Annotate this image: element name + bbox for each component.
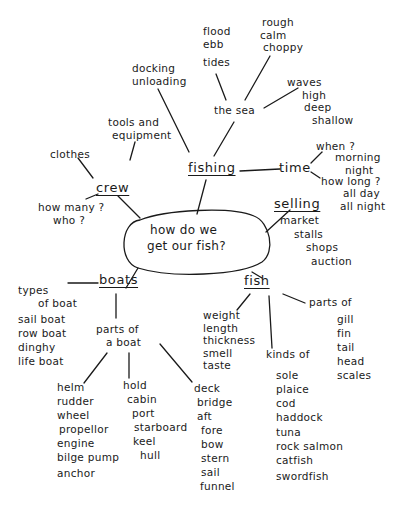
shops-text: shops bbox=[306, 241, 352, 255]
helm-text: helm bbox=[57, 380, 119, 394]
hull-text: hull bbox=[140, 448, 187, 462]
keel-text: keel bbox=[133, 434, 187, 448]
parts-of-fish-label: parts of bbox=[309, 296, 352, 309]
funnel-text: funnel bbox=[200, 479, 235, 493]
deck-text: deck bbox=[194, 381, 235, 395]
fish-parts-list: gill fin tail head scales bbox=[337, 312, 371, 382]
sea-conditions: rough calm choppy bbox=[260, 16, 303, 54]
selling-node: selling bbox=[274, 196, 320, 211]
shallow-text: shallow bbox=[312, 114, 354, 127]
gill-text: gill bbox=[337, 312, 371, 326]
mind-map: how do we get our fish? fishing docking … bbox=[0, 0, 409, 506]
calm-text: calm bbox=[260, 29, 303, 42]
fish-node: fish bbox=[244, 273, 270, 288]
rudder-text: rudder bbox=[57, 394, 119, 408]
swordfish-text: swordfish bbox=[276, 469, 343, 483]
parts-of-text: parts of bbox=[96, 323, 141, 336]
all-night-text: all night bbox=[340, 200, 385, 213]
anchor-text: anchor bbox=[57, 466, 119, 480]
engine-text: engine bbox=[57, 436, 119, 450]
wheel-text: wheel bbox=[57, 408, 119, 422]
dinghy-text: dinghy bbox=[18, 341, 66, 355]
tools-node: tools and equipment bbox=[108, 116, 172, 141]
boat-types-list: sail boat row boat dinghy life boat bbox=[18, 313, 66, 369]
length-text: length bbox=[203, 322, 255, 335]
fin-text: fin bbox=[337, 326, 371, 340]
deep-text: deep bbox=[304, 101, 354, 114]
helm-group: helm rudder wheel propellor engine bilge… bbox=[57, 380, 119, 480]
center-line-1: how do we bbox=[150, 222, 226, 238]
hold-group: hold cabin port starboard keel hull bbox=[123, 378, 187, 462]
tides-items: flood ebb bbox=[203, 25, 231, 50]
tools-text: tools and bbox=[108, 116, 172, 129]
sail-boat-text: sail boat bbox=[18, 313, 66, 327]
catfish-text: catfish bbox=[276, 453, 343, 467]
time-node: time bbox=[279, 160, 311, 175]
ebb-text: ebb bbox=[203, 38, 231, 51]
parts-of-a-boat-label: parts of a boat bbox=[96, 323, 141, 348]
sole-text: sole bbox=[276, 368, 343, 382]
starboard-text: starboard bbox=[134, 420, 187, 434]
stalls-text: stalls bbox=[294, 228, 352, 242]
tail-text: tail bbox=[337, 340, 371, 354]
boats-node: boats bbox=[99, 272, 138, 287]
kinds-of-label: kinds of bbox=[266, 348, 310, 361]
choppy-text: choppy bbox=[263, 41, 303, 54]
crew-questions: how many ? who ? bbox=[38, 201, 104, 226]
how-many-text: how many ? bbox=[38, 201, 104, 214]
aft-text: aft bbox=[197, 409, 235, 423]
the-sea-node: the sea bbox=[214, 104, 255, 117]
cod-text: cod bbox=[276, 396, 343, 410]
fore-text: fore bbox=[201, 423, 235, 437]
equipment-text: equipment bbox=[112, 129, 172, 142]
tides-node: tides bbox=[203, 56, 230, 69]
tuna-text: tuna bbox=[276, 425, 343, 439]
central-question: how do we get our fish? bbox=[150, 222, 226, 254]
sail-text: sail bbox=[201, 465, 235, 479]
plaice-text: plaice bbox=[276, 382, 343, 396]
selling-items: market stalls shops auction bbox=[280, 214, 352, 268]
stern-text: stern bbox=[201, 451, 235, 465]
center-line-2: get our fish? bbox=[147, 238, 226, 254]
rock-salmon-text: rock salmon bbox=[276, 439, 343, 453]
propellor-text: propellor bbox=[59, 422, 119, 436]
when-items: morning night bbox=[335, 151, 381, 176]
haddock-text: haddock bbox=[276, 410, 343, 424]
types-text: types bbox=[18, 284, 77, 297]
fishing-node: fishing bbox=[188, 160, 236, 175]
high-text: high bbox=[302, 89, 354, 102]
morning-text: morning bbox=[335, 151, 381, 164]
weight-text: weight bbox=[203, 309, 255, 322]
bridge-text: bridge bbox=[197, 395, 235, 409]
market-text: market bbox=[280, 214, 352, 228]
how-long-items: all day all night bbox=[340, 187, 385, 212]
bilge-pump-text: bilge pump bbox=[57, 450, 119, 464]
all-day-text: all day bbox=[343, 187, 385, 200]
auction-text: auction bbox=[311, 255, 352, 269]
of-boat-text: of boat bbox=[38, 297, 77, 310]
hold-text: hold bbox=[123, 378, 187, 392]
port-text: port bbox=[132, 406, 187, 420]
waves-text: waves bbox=[287, 76, 354, 89]
fish-kinds-list: sole plaice cod haddock tuna rock salmon… bbox=[276, 368, 343, 483]
waves-node: waves high deep shallow bbox=[287, 76, 354, 126]
flood-text: flood bbox=[203, 25, 231, 38]
scales-text: scales bbox=[337, 368, 371, 382]
smell-text: smell bbox=[203, 347, 255, 360]
rough-text: rough bbox=[262, 16, 303, 29]
taste-text: taste bbox=[203, 359, 255, 372]
crew-node: crew bbox=[96, 180, 129, 195]
fish-qualities: weight length thickness smell taste bbox=[203, 309, 255, 372]
life-boat-text: life boat bbox=[18, 355, 66, 369]
docking-text: docking bbox=[132, 62, 187, 75]
docking-node: docking unloading bbox=[132, 62, 187, 87]
head-text: head bbox=[337, 354, 371, 368]
bow-text: bow bbox=[201, 437, 235, 451]
types-of-boat-label: types of boat bbox=[18, 284, 77, 309]
unloading-text: unloading bbox=[132, 75, 187, 88]
row-boat-text: row boat bbox=[18, 327, 66, 341]
a-boat-text: a boat bbox=[106, 336, 141, 349]
cabin-text: cabin bbox=[127, 392, 187, 406]
how-long-text: how long ? bbox=[321, 175, 381, 188]
deck-group: deck bridge aft fore bow stern sail funn… bbox=[194, 381, 235, 493]
